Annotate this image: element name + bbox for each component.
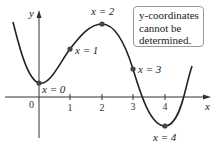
tick-label-0: 0 [29, 99, 34, 110]
point-label-x4: x = 4 [152, 131, 177, 143]
callout-line-3: determined. [139, 34, 203, 47]
tick-label-2: 2 [100, 102, 105, 113]
tick-label-1: 1 [68, 102, 73, 113]
point-x2 [99, 21, 104, 26]
point-x4 [162, 123, 167, 128]
point-x3 [130, 66, 135, 71]
point-label-x2: x = 2 [90, 5, 115, 17]
point-label-x3: x = 3 [137, 63, 162, 75]
y-axis-label: y [28, 7, 34, 19]
point-label-x0: x = 0 [41, 83, 66, 95]
y-axis-arrow-icon [37, 10, 42, 18]
callout-line-2: cannot be [139, 22, 203, 35]
x-axis-arrow-icon [203, 95, 211, 100]
callout-note: y-coordinates cannot be determined. [133, 6, 204, 47]
callout-line-1: y-coordinates [139, 9, 203, 22]
point-x0 [36, 80, 41, 85]
x-axis-label: x [204, 100, 210, 112]
point-label-x1: x = 1 [74, 44, 98, 56]
tick-label-4: 4 [163, 101, 168, 112]
tick-label-3: 3 [131, 101, 136, 112]
point-x1 [67, 46, 72, 51]
